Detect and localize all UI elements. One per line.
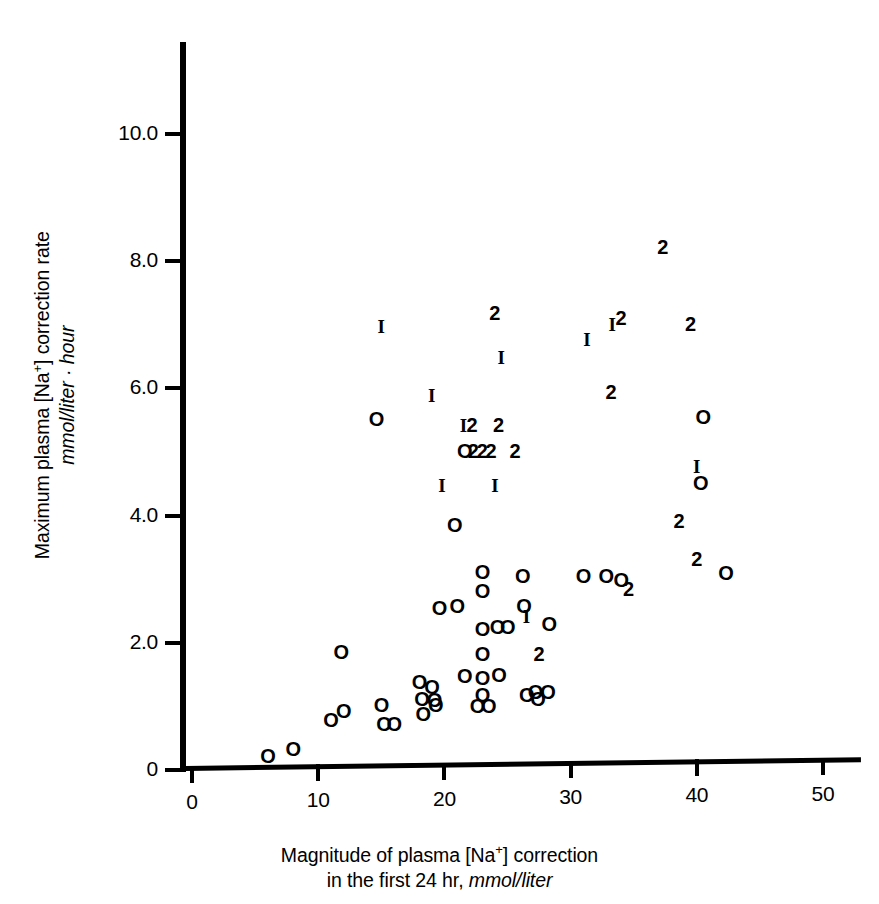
data-point-marker: O <box>428 695 443 715</box>
y-tick-mark <box>165 641 182 645</box>
data-point-marker: I <box>378 317 385 336</box>
data-point-marker: 2 <box>691 549 702 569</box>
y-tick-mark <box>165 386 182 390</box>
x-axis-title-superscript: + <box>495 842 503 857</box>
data-point-marker: O <box>475 581 490 601</box>
x-tick-mark <box>190 766 194 783</box>
y-tick-mark <box>165 768 182 772</box>
data-point-marker: 2 <box>623 579 634 599</box>
x-axis-title: Magnitude of plasma [Na+] correction in … <box>0 842 879 893</box>
data-point-marker: O <box>481 696 496 716</box>
data-point-marker: I <box>428 385 435 404</box>
data-point-marker: I <box>497 347 504 366</box>
data-point-marker: O <box>576 566 591 586</box>
data-point-marker: O <box>285 739 300 759</box>
data-point-marker: O <box>369 409 384 429</box>
x-axis-title-text-a: Magnitude of plasma [Na <box>281 844 496 866</box>
y-tick-label: 2.0 <box>88 630 158 654</box>
data-point-marker: O <box>693 473 708 493</box>
data-point-marker: O <box>432 598 447 618</box>
y-tick-label: 8.0 <box>88 248 158 272</box>
data-point-marker: O <box>449 596 464 616</box>
data-point-marker: O <box>598 566 613 586</box>
data-point-marker: I <box>583 329 590 348</box>
data-point-marker: O <box>260 746 275 766</box>
y-tick-mark <box>165 132 182 136</box>
data-point-marker: 2 <box>685 314 696 334</box>
data-point-marker: 2 <box>510 441 521 461</box>
data-point-marker: I <box>523 607 530 626</box>
data-point-marker: O <box>475 644 490 664</box>
data-point-marker: I <box>491 476 498 495</box>
data-point-marker: O <box>386 714 401 734</box>
data-point-marker: O <box>475 619 490 639</box>
y-axis-units: mmol/liter · hour <box>55 231 80 559</box>
data-point-marker: O <box>333 642 348 662</box>
x-tick-label: 0 <box>167 790 217 814</box>
y-tick-label: 4.0 <box>88 503 158 527</box>
y-tick-label: 6.0 <box>88 375 158 399</box>
y-tick-label: 0 <box>88 757 158 781</box>
data-point-marker: O <box>515 566 530 586</box>
y-tick-mark <box>165 259 182 263</box>
y-axis-line <box>180 42 186 772</box>
data-point-marker: O <box>540 682 555 702</box>
x-axis-title-text-c: in the first 24 hr, <box>327 869 469 891</box>
scatter-plot-figure: Maximum plasma [Na+] correction rate mmo… <box>0 0 879 904</box>
x-tick-mark <box>316 764 320 781</box>
data-point-marker: 2 <box>467 415 478 435</box>
data-point-marker: 2 <box>533 644 544 664</box>
x-axis-units: mmol/liter <box>469 869 553 891</box>
data-point-marker: O <box>336 701 351 721</box>
data-point-marker: 2 <box>657 237 668 257</box>
y-tick-label: 10.0 <box>88 121 158 145</box>
y-axis-title-text-b: ] correction rate <box>31 231 53 365</box>
x-tick-label: 10 <box>293 788 343 812</box>
data-point-marker: O <box>457 666 472 686</box>
data-point-marker: 2 <box>605 382 616 402</box>
data-point-marker: O <box>500 617 515 637</box>
x-tick-label: 20 <box>419 787 469 811</box>
x-tick-label: 30 <box>546 785 596 809</box>
data-point-marker: O <box>491 665 506 685</box>
y-axis-title-text-a: Maximum plasma [Na <box>31 372 53 559</box>
data-point-marker: 2 <box>674 511 685 531</box>
data-point-marker: O <box>447 515 462 535</box>
x-axis-title-text-b: ] correction <box>503 844 598 866</box>
data-point-marker: O <box>696 407 711 427</box>
y-axis-title-superscript: + <box>30 365 45 373</box>
x-tick-mark <box>695 759 699 776</box>
x-tick-mark <box>442 763 446 780</box>
data-point-marker: I <box>438 476 445 495</box>
y-tick-mark <box>165 514 182 518</box>
data-point-marker: 2 <box>486 441 497 461</box>
data-point-marker: O <box>718 563 733 583</box>
x-tick-mark <box>821 758 825 775</box>
data-point-marker: 2 <box>489 303 500 323</box>
x-tick-mark <box>569 761 573 778</box>
data-point-marker: O <box>475 562 490 582</box>
data-point-marker: 2 <box>493 415 504 435</box>
data-point-marker: 2 <box>616 308 627 328</box>
data-point-marker: O <box>542 614 557 634</box>
x-tick-label: 50 <box>798 782 848 806</box>
x-tick-label: 40 <box>672 783 722 807</box>
